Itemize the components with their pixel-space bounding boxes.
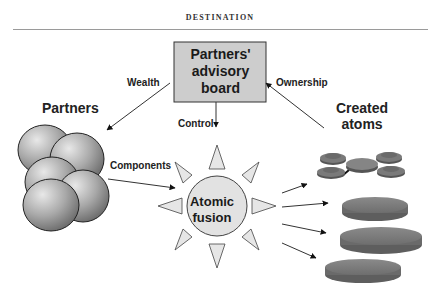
created-atoms-label: Created atoms	[333, 100, 391, 132]
components-label: Components	[110, 160, 171, 171]
disc-atom-2	[340, 227, 422, 254]
partners-cluster	[18, 125, 109, 231]
output-arrow-3	[282, 224, 326, 233]
board-line-1: Partners'	[177, 46, 264, 63]
created-atoms-line-1: Created	[333, 100, 391, 116]
atomic-fusion-label: Atomic fusion	[182, 194, 242, 226]
partners-label: Partners	[42, 100, 99, 116]
ownership-arrow	[266, 83, 324, 128]
board-line-2: advisory	[177, 63, 264, 80]
fusion-line-1: Atomic	[182, 194, 242, 210]
output-arrow-1	[282, 184, 307, 193]
board-line-3: board	[177, 80, 264, 97]
created-atoms-line-2: atoms	[333, 116, 391, 132]
wealth-arrow	[107, 83, 170, 130]
molecule-atom	[317, 152, 405, 179]
disc-atom-3	[325, 259, 401, 283]
control-label: Control	[178, 118, 214, 129]
components-arrow	[108, 179, 175, 188]
output-arrow-4	[282, 243, 316, 258]
advisory-board-label: Partners' advisory board	[177, 46, 264, 97]
output-arrow-2	[282, 203, 328, 207]
ownership-label: Ownership	[276, 77, 328, 88]
disc-atom-1	[342, 197, 408, 221]
fusion-line-2: fusion	[182, 210, 242, 226]
wealth-label: Wealth	[127, 77, 160, 88]
